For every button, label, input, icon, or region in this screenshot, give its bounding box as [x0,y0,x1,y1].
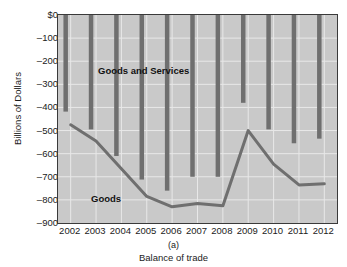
y-tick-label: –600 [37,147,58,158]
y-tick-label: –300 [37,78,58,89]
y-tick-label: –700 [37,170,58,181]
x-tick-label: 2005 [135,225,156,236]
y-tick-label: –900 [37,217,58,228]
y-tick-label: –200 [37,55,58,66]
plot-area: Goods and Services Goods [57,14,338,224]
bar [63,15,68,112]
chart-canvas [58,15,337,223]
x-tick-label: 2006 [161,225,182,236]
series-label-goods-and-services: Goods and Services [98,65,189,76]
bar [216,15,221,177]
panel-letter: (a) [0,240,347,250]
x-tick-label: 2008 [211,225,232,236]
y-tick-label: –100 [37,32,58,43]
balance-of-trade-figure: Billions of Dollars $0–100–200–300–400–5… [0,0,347,267]
bar [114,15,119,156]
y-tick-label: –400 [37,101,58,112]
x-tick-label: 2007 [186,225,207,236]
bar [165,15,170,191]
x-tick-label: 2012 [313,225,334,236]
scan-artifact [100,0,140,5]
bar [266,15,271,129]
bar [89,15,94,129]
x-tick-label: 2002 [59,225,80,236]
y-tick-label: –800 [37,193,58,204]
x-tick-label: 2011 [288,225,308,236]
x-tick-label: 2010 [262,225,283,236]
x-axis-tick-labels: 2002200320042005200620072008200920102011… [57,225,338,239]
x-tick-label: 2003 [84,225,105,236]
bar-series-goods-and-services [63,15,321,191]
x-tick-label: 2009 [237,225,258,236]
figure-caption: Balance of trade [0,252,347,263]
x-tick-label: 2004 [110,225,131,236]
bar [317,15,322,139]
bar [190,15,195,177]
bar [241,15,246,103]
bar [292,15,297,143]
bar [140,15,145,180]
y-axis-tick-labels: $0–100–200–300–400–500–600–700–800–900 [18,0,58,230]
series-label-goods: Goods [91,193,121,204]
y-tick-label: –500 [37,124,58,135]
